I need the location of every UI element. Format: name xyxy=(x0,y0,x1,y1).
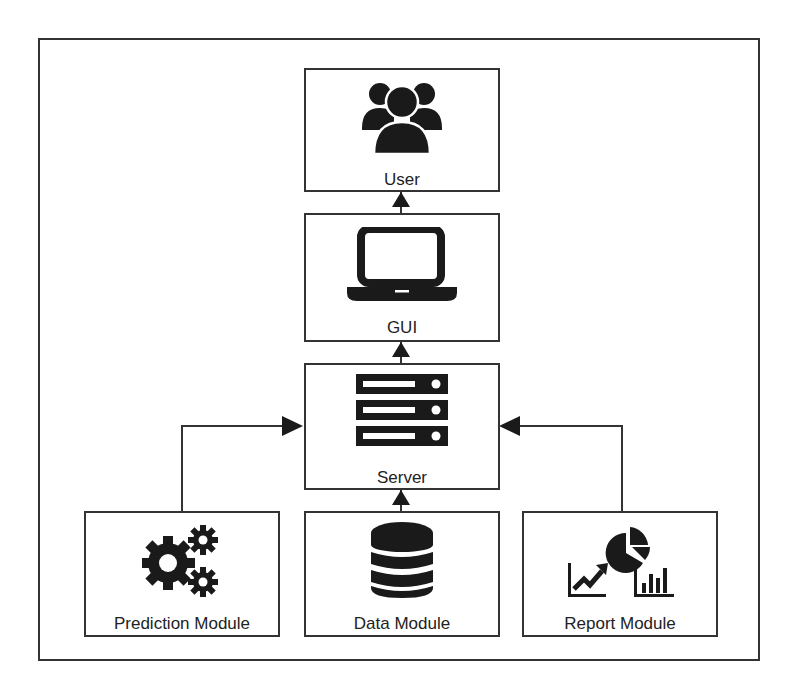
node-prediction-module-label: Prediction Module xyxy=(86,614,278,634)
node-report-module: Report Module xyxy=(522,511,718,637)
charts-report-icon xyxy=(560,525,680,601)
node-data-module-label: Data Module xyxy=(306,614,498,634)
node-user: User xyxy=(304,68,500,192)
node-report-module-label: Report Module xyxy=(524,614,716,634)
node-server-label: Server xyxy=(306,468,498,488)
node-prediction-module: Prediction Module xyxy=(84,511,280,637)
node-gui-label: GUI xyxy=(306,318,498,338)
node-gui: GUI xyxy=(304,213,500,342)
laptop-icon xyxy=(347,227,457,303)
node-data-module: Data Module xyxy=(304,511,500,637)
node-user-label: User xyxy=(306,170,498,190)
users-group-icon xyxy=(360,76,444,156)
arrow-report-to-server xyxy=(516,426,622,511)
arrow-prediction-to-server xyxy=(182,426,286,511)
node-server: Server xyxy=(304,363,500,490)
server-rack-icon xyxy=(356,374,448,446)
gears-icon xyxy=(142,525,222,599)
database-icon xyxy=(370,522,434,598)
